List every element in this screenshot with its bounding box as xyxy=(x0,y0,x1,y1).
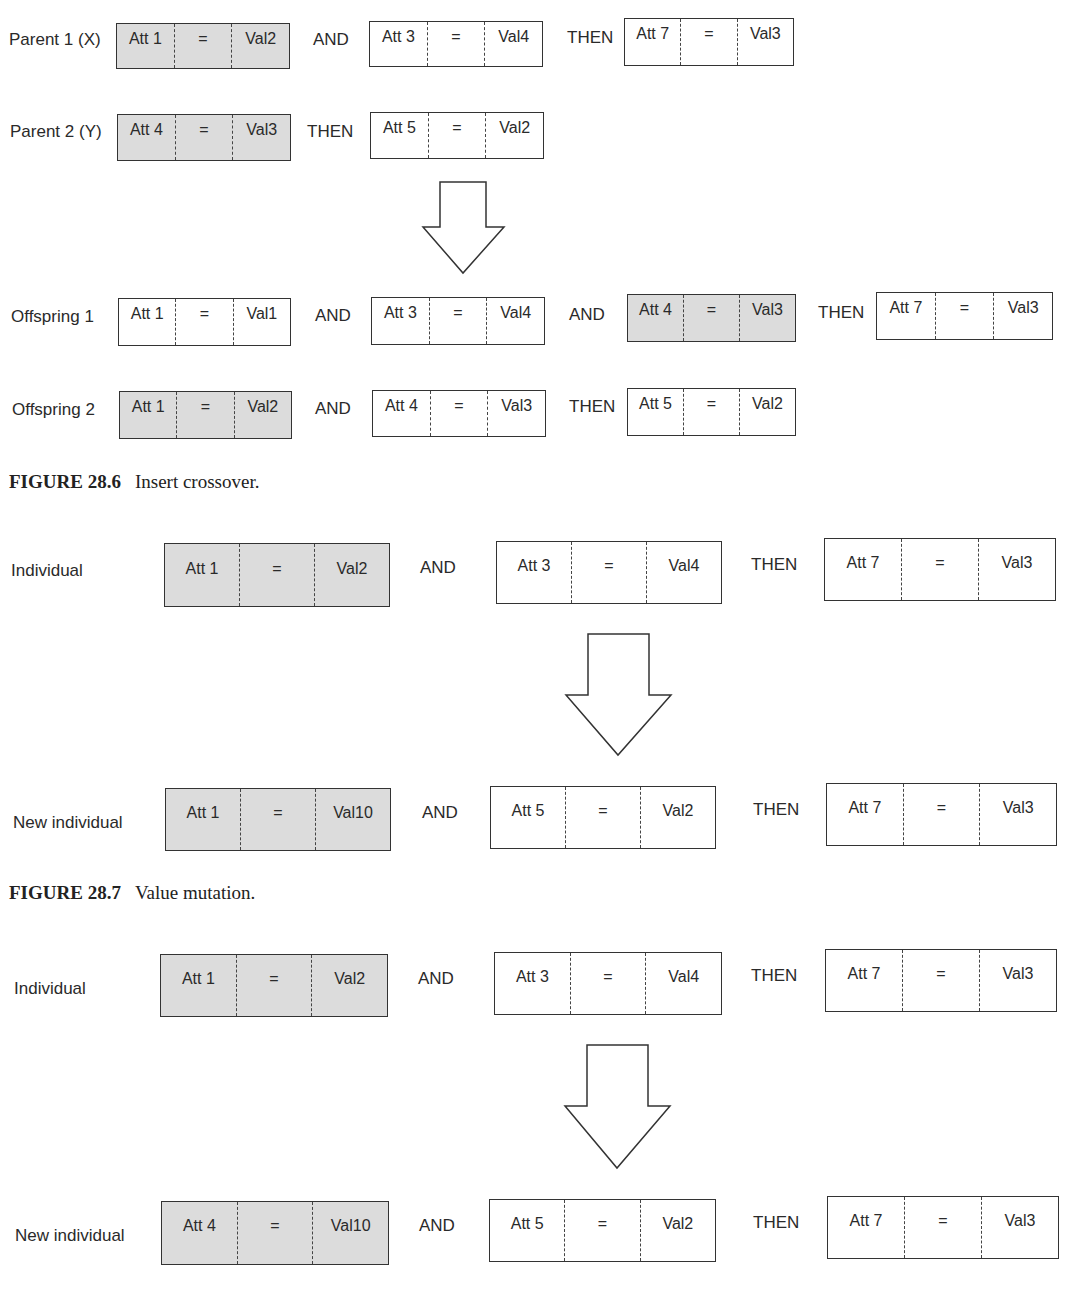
condition-box: Att 5 = Val2 xyxy=(490,786,716,849)
value: Val2 xyxy=(640,787,715,848)
operator: = xyxy=(428,113,486,158)
figure-title: Insert crossover. xyxy=(135,471,260,492)
figure-number: FIGURE 28.6 xyxy=(9,471,121,492)
attribute: Att 1 xyxy=(165,544,239,606)
row-label: Individual xyxy=(11,561,83,581)
condition-box: Att 1 = Val10 xyxy=(165,788,391,851)
value: Val2 xyxy=(485,113,543,158)
attribute: Att 3 xyxy=(372,298,429,344)
row-label: New individual xyxy=(15,1226,125,1246)
figure-title: Value mutation. xyxy=(135,882,255,903)
connector-and: AND xyxy=(569,305,605,325)
value: Val3 xyxy=(979,950,1056,1011)
operator: = xyxy=(239,544,314,606)
value: Val1 xyxy=(233,299,290,345)
condition-box: Att 1 = Val1 xyxy=(118,298,291,346)
row-label: Offspring 2 xyxy=(12,400,95,420)
value: Val3 xyxy=(979,784,1056,845)
connector-and: AND xyxy=(419,1216,455,1236)
operator: = xyxy=(680,19,736,65)
value: Val10 xyxy=(315,789,390,850)
row-label: New individual xyxy=(13,813,123,833)
operator: = xyxy=(429,298,487,344)
condition-box: Att 3 = Val4 xyxy=(369,21,543,67)
connector-then: THEN xyxy=(569,397,615,417)
attribute: Att 1 xyxy=(161,955,236,1016)
operator: = xyxy=(901,539,978,600)
value: Val3 xyxy=(739,295,795,341)
operator: = xyxy=(570,953,646,1014)
value: Val2 xyxy=(234,392,291,438)
value: Val3 xyxy=(487,391,545,436)
condition-box: Att 1 = Val2 xyxy=(116,23,290,69)
connector-then: THEN xyxy=(753,1213,799,1233)
attribute: Att 1 xyxy=(166,789,240,850)
operator: = xyxy=(175,115,233,160)
value: Val3 xyxy=(993,293,1052,339)
figure-number: FIGURE 28.7 xyxy=(9,882,121,903)
condition-box: Att 7 = Val3 xyxy=(824,538,1056,601)
attribute: Att 5 xyxy=(491,787,565,848)
operator: = xyxy=(935,293,994,339)
attribute: Att 4 xyxy=(373,391,430,436)
connector-then: THEN xyxy=(567,28,613,48)
value: Val2 xyxy=(231,24,289,68)
attribute: Att 4 xyxy=(628,295,683,341)
attribute: Att 1 xyxy=(119,299,175,345)
operator: = xyxy=(903,784,980,845)
operator: = xyxy=(904,1197,981,1258)
attribute: Att 1 xyxy=(120,392,176,438)
value: Val3 xyxy=(981,1197,1058,1258)
attribute: Att 4 xyxy=(162,1202,237,1264)
condition-box: Att 1 = Val2 xyxy=(160,954,388,1017)
value: Val3 xyxy=(978,539,1055,600)
connector-and: AND xyxy=(420,558,456,578)
operator: = xyxy=(176,392,233,438)
condition-box: Att 1 = Val2 xyxy=(164,543,390,607)
value: Val3 xyxy=(232,115,290,160)
value: Val3 xyxy=(737,19,793,65)
operator: = xyxy=(564,1200,639,1261)
connector-then: THEN xyxy=(751,966,797,986)
value: Val10 xyxy=(312,1202,388,1264)
attribute: Att 7 xyxy=(828,1197,904,1258)
value: Val4 xyxy=(646,542,721,603)
condition-box: Att 4 = Val3 xyxy=(372,390,546,437)
operator: = xyxy=(571,542,646,603)
condition-box: Att 7 = Val3 xyxy=(624,18,794,66)
connector-then: THEN xyxy=(818,303,864,323)
operator: = xyxy=(236,955,312,1016)
attribute: Att 7 xyxy=(827,784,903,845)
row-label: Offspring 1 xyxy=(11,307,94,327)
row-label: Parent 1 (X) xyxy=(9,30,101,50)
connector-then: THEN xyxy=(751,555,797,575)
condition-box: Att 7 = Val3 xyxy=(825,949,1057,1012)
attribute: Att 5 xyxy=(371,113,428,158)
down-arrow-icon xyxy=(422,181,506,275)
operator: = xyxy=(565,787,640,848)
value: Val4 xyxy=(486,298,544,344)
attribute: Att 3 xyxy=(370,22,427,66)
connector-and: AND xyxy=(315,399,351,419)
condition-box: Att 7 = Val3 xyxy=(876,292,1053,340)
attribute: Att 7 xyxy=(877,293,935,339)
condition-box: Att 5 = Val2 xyxy=(627,388,796,436)
operator: = xyxy=(902,950,979,1011)
condition-box: Att 4 = Val3 xyxy=(117,114,291,161)
operator: = xyxy=(427,22,485,66)
attribute: Att 7 xyxy=(826,950,902,1011)
value: Val2 xyxy=(640,1200,715,1261)
condition-box: Att 5 = Val2 xyxy=(489,1199,716,1262)
attribute: Att 5 xyxy=(628,389,683,435)
attribute: Att 7 xyxy=(625,19,680,65)
attribute: Att 7 xyxy=(825,539,901,600)
value: Val4 xyxy=(484,22,542,66)
condition-box: Att 1 = Val2 xyxy=(119,391,292,439)
condition-box: Att 4 = Val10 xyxy=(161,1201,389,1265)
condition-box: Att 7 = Val3 xyxy=(827,1196,1059,1259)
connector-and: AND xyxy=(315,306,351,326)
connector-then: THEN xyxy=(307,122,353,142)
attribute: Att 1 xyxy=(117,24,174,68)
connector-and: AND xyxy=(422,803,458,823)
value: Val2 xyxy=(311,955,387,1016)
